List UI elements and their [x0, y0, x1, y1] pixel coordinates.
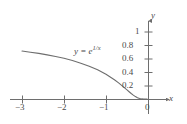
- exponent-denominator: x: [98, 44, 101, 51]
- x-tick-label-minus1: −1: [99, 103, 109, 112]
- y-tick-label-0-2: 0.2: [122, 81, 133, 90]
- x-tick-label-minus3: −3: [15, 103, 25, 112]
- x-axis-label: x: [169, 94, 173, 103]
- y-tick-label-0-8: 0.8: [122, 41, 133, 50]
- origin-tick-label: 0: [145, 103, 150, 112]
- figure-container: −3 −2 −1 0 0.2 0.4 0.6 0.8 1 x y y = e1/…: [0, 0, 187, 124]
- curve-equation-label: y = e1/x: [74, 47, 101, 56]
- y-tick-label-0-6: 0.6: [122, 54, 133, 63]
- x-tick-label-minus2: −2: [57, 103, 67, 112]
- plot-area: [0, 0, 187, 124]
- y-axis-label: y: [151, 11, 155, 20]
- equation-exponent: 1/x: [93, 44, 101, 51]
- y-tick-label-1: 1: [135, 27, 140, 36]
- y-tick-label-0-4: 0.4: [122, 68, 133, 77]
